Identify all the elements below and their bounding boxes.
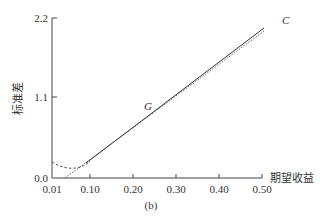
label-C: C bbox=[282, 14, 290, 26]
x-tick-labels: 0.01 0.10 0.20 0.30 0.40 0.50 bbox=[42, 183, 272, 195]
x-tick-0.10: 0.10 bbox=[80, 183, 100, 195]
series-frontier-solid bbox=[86, 28, 264, 163]
y-axis bbox=[52, 18, 57, 178]
x-tick-0.20: 0.20 bbox=[123, 183, 143, 195]
y-axis-title: 标准差 bbox=[11, 82, 24, 115]
y-tick-labels: 2.2 1.1 0.0 bbox=[34, 12, 48, 184]
series-frontier-dashed bbox=[52, 161, 90, 168]
label-G: G bbox=[144, 100, 152, 112]
figure-caption: (b) bbox=[145, 199, 158, 212]
x-axis-title: 期望收益 bbox=[270, 171, 314, 184]
y-tick-1.1: 1.1 bbox=[34, 91, 48, 103]
chart: 2.2 1.1 0.0 0.01 0.10 0.20 0.30 0.40 0.5… bbox=[0, 0, 328, 223]
x-tick-0.30: 0.30 bbox=[166, 183, 186, 195]
x-tick-0.40: 0.40 bbox=[209, 183, 229, 195]
x-tick-0.50: 0.50 bbox=[252, 183, 272, 195]
x-axis bbox=[52, 174, 262, 178]
x-tick-0.01: 0.01 bbox=[42, 183, 61, 195]
y-tick-2.2: 2.2 bbox=[34, 12, 48, 24]
